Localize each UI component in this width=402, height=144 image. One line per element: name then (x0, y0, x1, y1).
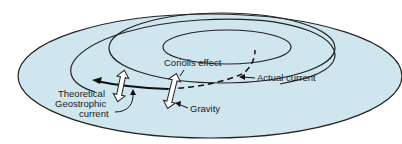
geostrophic-current-diagram: Coriolis effect Actual current Theoretic… (0, 0, 402, 144)
actual-current-label: Actual current (257, 72, 316, 83)
ocean-basin (18, 14, 402, 138)
coriolis-label: Coriolis effect (164, 57, 222, 68)
gravity-label: Gravity (190, 103, 220, 114)
theoretical-label-3: current (79, 108, 109, 119)
